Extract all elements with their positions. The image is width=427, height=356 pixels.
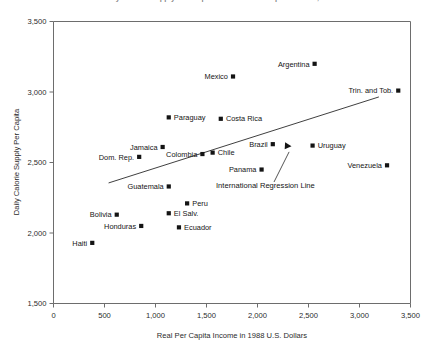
y-tick-label: 1,500 [27, 299, 46, 308]
scatter-plot: 1,5002,0002,5003,0003,500 05001,0001,500… [0, 0, 427, 356]
data-point: Bolivia [90, 210, 119, 219]
point-label: Ecuador [184, 223, 212, 232]
annotation-leader [274, 142, 292, 182]
x-tick-label: 1,000 [146, 311, 165, 320]
point-marker [167, 211, 171, 215]
point-label: Peru [192, 199, 208, 208]
point-label: Uruguay [318, 141, 346, 150]
data-point: Trin. and Tob. [348, 86, 400, 95]
point-label: Colombia [166, 150, 198, 159]
point-label: Jamaica [130, 143, 158, 152]
point-marker [137, 155, 141, 159]
point-marker [271, 142, 275, 146]
data-point: Haiti [72, 239, 94, 248]
point-marker [385, 163, 389, 167]
y-tick-label: 3,000 [27, 88, 46, 97]
point-marker [90, 241, 94, 245]
data-point: Panama [229, 165, 264, 174]
point-marker [231, 74, 235, 78]
x-axis-ticks: 05001,0001,5002,0002,5003,0003,500 [51, 304, 420, 320]
data-point: Honduras [104, 222, 143, 231]
y-axis-title: Daily Calorie Supply Per Capita [12, 108, 21, 215]
x-axis-title: Real Per Capita Income in 1988 U.S. Doll… [157, 331, 307, 340]
y-tick-label: 2,500 [27, 158, 46, 167]
data-point: Venezuela [347, 161, 389, 170]
point-marker [313, 62, 317, 66]
point-marker [167, 184, 171, 188]
x-tick-label: 0 [51, 311, 55, 320]
point-marker [259, 167, 263, 171]
point-marker [115, 213, 119, 217]
point-label: Trin. and Tob. [348, 86, 393, 95]
point-label: Chile [218, 148, 235, 157]
y-tick-label: 3,500 [27, 17, 46, 26]
point-marker [219, 117, 223, 121]
data-point: Guatemala [128, 182, 171, 191]
point-marker [167, 115, 171, 119]
data-points-layer: HaitiBoliviaHondurasDom. Rep.JamaicaGuat… [72, 60, 400, 248]
chart-container: Daily Calorie Supply Per Capita and Real… [0, 0, 427, 356]
point-marker [211, 151, 215, 155]
x-tick-label: 2,000 [248, 311, 267, 320]
point-label: Venezuela [347, 161, 382, 170]
point-marker [161, 145, 165, 149]
point-label: Costa Rica [226, 114, 263, 123]
point-label: Guatemala [128, 182, 165, 191]
point-marker [177, 225, 181, 229]
data-point: Paraguay [167, 113, 206, 122]
point-marker [200, 152, 204, 156]
regression-line-annotation: International Regression Line [216, 181, 315, 190]
point-marker [185, 201, 189, 205]
point-label: El Salv. [174, 209, 199, 218]
point-label: Honduras [104, 222, 136, 231]
point-label: Bolivia [90, 210, 113, 219]
data-point: Jamaica [130, 143, 165, 152]
x-tick-label: 3,000 [350, 311, 369, 320]
x-tick-label: 3,500 [401, 311, 420, 320]
data-point: Uruguay [310, 141, 345, 150]
data-point: Peru [185, 199, 208, 208]
point-label: Mexico [204, 72, 227, 81]
point-label: Brazil [249, 140, 268, 149]
y-tick-label: 2,000 [27, 229, 46, 238]
point-marker [310, 143, 314, 147]
x-tick-label: 500 [98, 311, 111, 320]
point-label: Haiti [72, 239, 87, 248]
point-label: Dom. Rep. [99, 153, 134, 162]
data-point: El Salv. [167, 209, 199, 218]
data-point: Argentina [278, 60, 317, 69]
data-point: Mexico [204, 72, 235, 81]
arrowhead-icon [285, 142, 292, 149]
point-label: Argentina [278, 60, 311, 69]
x-tick-label: 1,500 [197, 311, 216, 320]
y-axis-ticks: 1,5002,0002,5003,0003,500 [27, 17, 53, 308]
point-label: Panama [229, 165, 257, 174]
data-point: Dom. Rep. [99, 153, 142, 162]
point-marker [396, 88, 400, 92]
x-tick-label: 2,500 [299, 311, 318, 320]
data-point: Brazil [249, 140, 275, 149]
point-marker [139, 224, 143, 228]
point-label: Paraguay [174, 113, 206, 122]
data-point: Costa Rica [219, 114, 263, 123]
data-point: Ecuador [177, 223, 212, 232]
leader-line [274, 152, 289, 182]
